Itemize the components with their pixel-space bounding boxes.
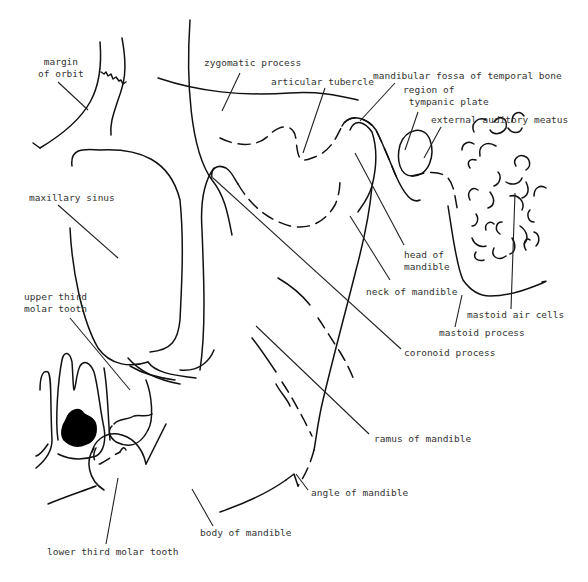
leader-mandibular-fossa [360, 83, 395, 121]
label-head-of-mandible: head of mandible [404, 249, 450, 273]
label-maxillary-sinus: maxillary sinus [29, 192, 115, 204]
leader-margin-of-orbit [58, 82, 88, 110]
label-neck-of-mandible: neck of mandible [366, 286, 458, 298]
leader-neck-of-mandible [350, 216, 390, 280]
leader-articular-tubercle [303, 88, 325, 153]
leader-head-of-mandible [355, 153, 404, 245]
label-zygomatic-process: zygomatic process [204, 57, 301, 69]
label-body-of-mandible: body of mandible [200, 527, 292, 539]
leader-external-auditory-meatus [424, 127, 441, 158]
leader-zygomatic-process [222, 73, 240, 111]
leader-upper-third-molar [70, 318, 130, 390]
leader-coronoid-process [213, 178, 401, 349]
label-articular-tubercle: articular tubercle [271, 76, 374, 88]
label-mastoid-process: mastoid process [439, 327, 525, 339]
label-angle-of-mandible: angle of mandible [311, 487, 408, 499]
label-mastoid-air-cells: mastoid air cells [467, 309, 564, 321]
leader-mastoid-air-cells [511, 193, 515, 309]
leader-tympanic-plate [405, 112, 418, 150]
label-margin-of-orbit: margin of orbit [38, 56, 84, 80]
anatomy-diagram: margin of orbit zygomatic process articu… [0, 0, 588, 582]
leader-body-of-mandible [192, 489, 213, 526]
label-upper-third-molar: upper third molar tooth [24, 291, 87, 315]
label-ramus-of-mandible: ramus of mandible [374, 433, 471, 445]
leader-angle-of-mandible [296, 474, 308, 490]
leader-maxillary-sinus [58, 205, 118, 258]
label-coronoid-process: coronoid process [404, 347, 496, 359]
label-external-auditory-meatus: external auditory meatus [431, 114, 568, 126]
label-lower-third-molar: lower third molar tooth [47, 546, 179, 558]
label-region-tympanic-plate: region of tympanic plate [403, 84, 489, 108]
leader-lower-third-molar [106, 478, 118, 544]
leader-mastoid-process [455, 295, 462, 327]
leader-ramus-of-mandible [256, 326, 369, 434]
label-mandibular-fossa: mandibular fossa of temporal bone [373, 70, 562, 82]
